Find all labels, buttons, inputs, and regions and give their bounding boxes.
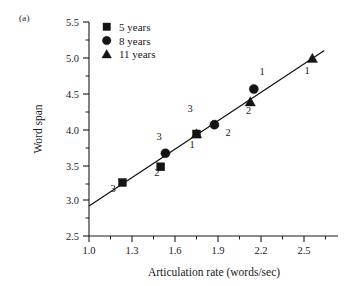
legend-label: 11 years [119,48,156,60]
y-tick-label: 3.0 [66,195,79,206]
point-label: 2 [246,105,251,116]
data-point-square[interactable] [118,179,126,187]
y-axis-tick-labels: 5.5 5.0 4.5 4.0 3.5 3.0 2.5 [66,17,79,242]
y-tick-label: 5.5 [66,17,79,28]
x-axis-title: Articulation rate (words/sec) [148,266,280,279]
y-tick-label: 4.5 [66,89,79,100]
figure-panel-a: (a) 5.5 5.0 4.5 [0,0,345,286]
data-point-circle[interactable] [161,149,170,158]
point-label: 2 [154,167,159,178]
y-tick-label: 4.0 [66,125,79,136]
data-point-circle[interactable] [249,84,258,93]
y-tick-label: 5.0 [66,53,79,64]
legend: 5 years 8 years 11 years [102,21,156,60]
point-label: 3 [110,183,115,194]
x-tick-label: 1.6 [168,245,181,256]
x-axis-tick-labels: 1.0 1.3 1.6 1.9 2.2 2.5 2.8 [82,245,310,256]
legend-marker-square-icon [103,23,111,31]
x-tick-label: 2.5 [297,245,310,256]
y-axis-title: Word span [32,104,45,153]
legend-marker-triangle-icon [102,50,112,59]
x-tick-label: 2.2 [254,245,267,256]
x-tick-label: 1.9 [211,245,224,256]
legend-label: 5 years [119,21,150,33]
y-axis-ticks [83,22,89,236]
data-point-triangle[interactable] [307,53,317,62]
point-label: 1 [304,65,309,76]
point-label: 1 [189,139,194,150]
data-point-circle[interactable] [210,120,219,129]
x-tick-label: 1.3 [125,245,138,256]
x-tick-label: 1.0 [82,245,95,256]
point-label: 3 [156,131,161,142]
point-label: 2 [225,127,230,138]
y-tick-label: 3.5 [66,161,79,172]
legend-label: 8 years [119,35,150,47]
point-label: 1 [259,66,264,77]
data-point-labels: 3 2 1 3 2 1 3 2 1 [110,65,309,194]
x-axis-ticks [89,236,326,242]
y-tick-label: 2.5 [66,231,79,242]
scatter-plot: 5.5 5.0 4.5 4.0 3.5 3.0 2.5 1.0 1.3 [0,0,345,286]
point-label: 3 [187,103,192,114]
legend-marker-circle-icon [102,36,111,45]
